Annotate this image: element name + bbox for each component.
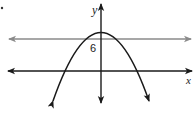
- graph-figure: y x 6: [0, 0, 193, 115]
- y-axis-label: y: [91, 3, 98, 17]
- item-marker-dot: [1, 7, 3, 9]
- y-intercept-label: 6: [90, 42, 96, 54]
- x-axis-label: x: [185, 74, 191, 86]
